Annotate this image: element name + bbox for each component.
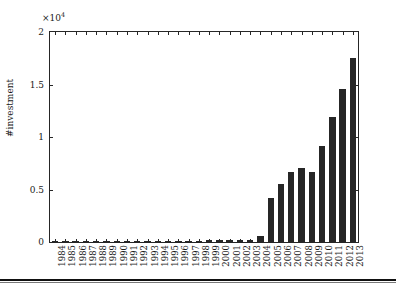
x-tick-label-1987: 1987	[89, 245, 98, 267]
y-tick-label-1.5: 1.5	[30, 80, 44, 89]
y-tick-label-0: 0	[38, 238, 44, 247]
x-tick-label-2013: 2013	[356, 245, 365, 267]
x-tick-label-1988: 1988	[99, 245, 108, 267]
x-tick-label-2007: 2007	[294, 245, 303, 267]
y-tick-label-1: 1	[38, 133, 44, 142]
bar-1991	[124, 241, 130, 242]
bar-2006	[278, 184, 284, 242]
bar-1994	[155, 241, 161, 242]
x-tick-label-1994: 1994	[161, 245, 170, 267]
x-tick-label-2002: 2002	[243, 245, 252, 267]
bar-1999	[206, 240, 212, 242]
y-axis-exponent-base: ×10	[42, 13, 61, 23]
x-tick-label-2011: 2011	[335, 245, 344, 267]
x-tick-label-1999: 1999	[212, 245, 221, 267]
x-tick-label-1992: 1992	[140, 245, 149, 267]
bar-1996	[175, 241, 181, 242]
bar-1987	[83, 241, 89, 242]
bar-2001	[226, 240, 232, 242]
x-tick-label-2005: 2005	[274, 245, 283, 267]
y-tick-label-2: 2	[38, 28, 44, 37]
bar-2013	[350, 58, 356, 242]
x-tick-label-1993: 1993	[151, 245, 160, 267]
bar-1988	[93, 241, 99, 242]
x-tick-label-1984: 1984	[58, 245, 67, 267]
x-tick-label-2004: 2004	[263, 245, 272, 267]
x-tick-label-1997: 1997	[192, 245, 201, 267]
bar-1993	[144, 241, 150, 242]
bar-2012	[339, 89, 345, 242]
x-tick-label-2000: 2000	[222, 245, 231, 267]
x-tick-label-2006: 2006	[284, 245, 293, 267]
bar-1997	[185, 241, 191, 242]
y-axis-exponent-label: ×104	[42, 14, 65, 23]
bar-2004	[257, 236, 263, 242]
x-tick-label-2003: 2003	[253, 245, 262, 267]
bar-2003	[247, 240, 253, 242]
bar-2002	[237, 240, 243, 242]
page-separator-rule	[0, 279, 396, 281]
bar-1992	[134, 241, 140, 242]
bar-series	[50, 32, 358, 242]
bar-1986	[72, 241, 78, 242]
bar-1995	[165, 241, 171, 242]
page-separator-rule-secondary	[0, 282, 396, 283]
bar-2008	[298, 168, 304, 242]
x-tick-label-1998: 1998	[202, 245, 211, 267]
x-tick-label-1989: 1989	[109, 245, 118, 267]
bar-2007	[288, 172, 294, 242]
bar-1984	[52, 241, 58, 242]
x-tick-label-2012: 2012	[346, 245, 355, 267]
y-axis-exponent-power: 4	[61, 11, 65, 19]
bar-2010	[319, 146, 325, 242]
x-tick-label-2001: 2001	[233, 245, 242, 267]
x-tick-label-2010: 2010	[325, 245, 334, 267]
x-tick-label-2009: 2009	[315, 245, 324, 267]
bar-2000	[216, 240, 222, 242]
bar-1998	[196, 241, 202, 242]
bar-1985	[62, 241, 68, 242]
x-tick-label-2008: 2008	[305, 245, 314, 267]
x-tick-label-1986: 1986	[79, 245, 88, 267]
bar-1990	[114, 241, 120, 242]
bar-2011	[329, 117, 335, 242]
bar-2009	[309, 172, 315, 242]
investment-bar-chart-figure: ×104 #investment 00.511.52 1984198519861…	[0, 0, 396, 292]
x-tick-label-1996: 1996	[181, 245, 190, 267]
x-tick-label-1995: 1995	[171, 245, 180, 267]
y-tick-label-0.5: 0.5	[30, 185, 44, 194]
bar-1989	[103, 241, 109, 242]
bar-2005	[268, 198, 274, 242]
x-tick-label-1991: 1991	[130, 245, 139, 267]
x-tick-label-1990: 1990	[120, 245, 129, 267]
x-tick-label-1985: 1985	[68, 245, 77, 267]
y-axis-title: #investment	[6, 79, 15, 137]
